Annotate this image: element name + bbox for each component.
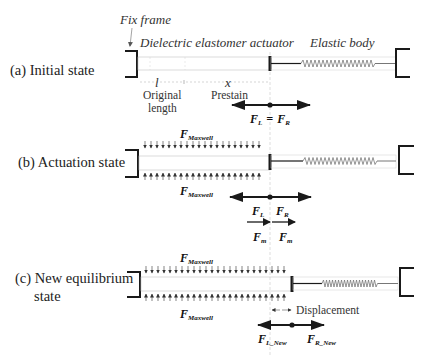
force-equation-a: FL=FR <box>249 112 290 127</box>
force-FR-new: FR_New <box>306 332 336 347</box>
actuator-body <box>139 156 270 170</box>
force-balance-arrow-icon <box>232 102 310 107</box>
maxwell-top-label-b: FMaxwell <box>179 127 213 142</box>
actuator-label: Dielectric elastomer actuator <box>139 35 295 50</box>
original-label-line2: length <box>148 102 177 115</box>
row-c-label-line2: state <box>34 288 61 304</box>
prestain-label: Prestain <box>211 89 248 101</box>
maxwell-pressure-arrows-bottom-b <box>145 173 259 180</box>
maxwell-pressure-arrows-bottom-c <box>146 294 284 301</box>
row-a-label: (a) Initial state <box>10 62 95 79</box>
compressed-spring-icon <box>322 280 378 287</box>
force-FL-b: FL <box>251 204 264 219</box>
right-fix-frame-icon <box>400 268 414 296</box>
maxwell-bottom-label-c: FMaxwell <box>179 307 213 322</box>
force-FR-b: FR <box>275 204 289 219</box>
actuator-body <box>138 57 270 70</box>
force-FL-new: FL_New <box>257 332 287 347</box>
displacement-label: Displacement <box>296 304 360 317</box>
right-fix-frame-icon <box>399 146 414 174</box>
maxwell-pressure-arrows-top-c <box>146 266 284 273</box>
row-actuation-state: (b) Actuation state FMaxwell FMaxwell FL… <box>18 127 414 245</box>
force-Fm-right: Fm <box>278 230 293 245</box>
maxwell-top-label-c: FMaxwell <box>179 251 213 266</box>
fix-frame-label: Fix frame <box>119 12 171 27</box>
actuator-body <box>141 277 292 291</box>
force-arrow-c-icon <box>258 322 324 327</box>
spring-icon <box>301 60 375 67</box>
right-fix-frame-icon <box>396 49 410 77</box>
diagram-canvas: Fix frame Dielectric elastomer actuator … <box>0 0 430 357</box>
l-symbol: l <box>155 75 159 90</box>
x-symbol: x <box>224 75 231 90</box>
force-arrow-b-icon <box>230 194 311 199</box>
row-initial-state: (a) Initial state l x Original length Pr… <box>10 49 410 127</box>
row-c-label-line1: (c) New equilibrium <box>15 270 134 287</box>
force-Fm-left: Fm <box>252 230 267 245</box>
spring-icon <box>303 158 377 165</box>
row-new-equilibrium-state: (c) New equilibrium state FMaxwell FMaxw… <box>15 251 414 347</box>
row-b-label: (b) Actuation state <box>18 154 125 171</box>
maxwell-pressure-arrows-top-b <box>145 141 259 148</box>
maxwell-bottom-label-b: FMaxwell <box>179 184 213 199</box>
left-fix-frame-icon <box>125 150 138 177</box>
original-label-line1: Original <box>143 89 181 102</box>
fix-frame-pointer-icon <box>130 28 132 46</box>
left-fix-frame-icon <box>125 51 137 77</box>
elastic-body-label: Elastic body <box>309 35 375 50</box>
